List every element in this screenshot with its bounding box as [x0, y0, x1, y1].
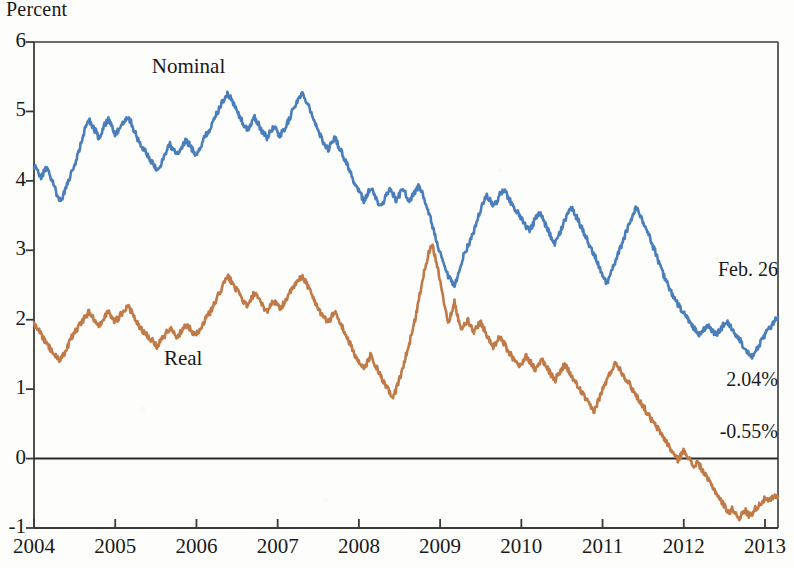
series-label-real: Real: [164, 346, 202, 371]
plot-area: [0, 0, 794, 568]
real-value-callout: -0.55%: [640, 420, 778, 443]
series-line-nominal: [34, 92, 778, 359]
as-of-date-callout: Feb. 26: [640, 258, 778, 281]
nominal-value-callout: 2.04%: [640, 368, 778, 391]
series-label-nominal: Nominal: [152, 54, 226, 79]
yield-chart: Percent 6543210-1 2004200520062007200820…: [0, 0, 794, 568]
data-series: [34, 92, 778, 521]
axes: [26, 42, 778, 528]
